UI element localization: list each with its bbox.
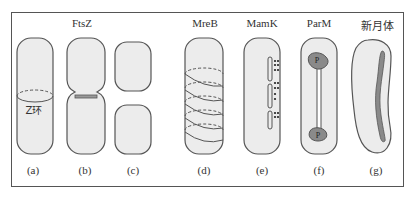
panel-label-c: (c) — [127, 164, 139, 176]
header-ftsz: FtsZ — [72, 17, 92, 29]
parm-filament — [317, 64, 321, 132]
mamk-filament — [268, 57, 272, 81]
mamk-filament — [268, 84, 272, 108]
cell-e — [244, 38, 280, 154]
mamk-filament — [268, 111, 272, 129]
panel-label-d: (d) — [198, 164, 211, 176]
header-mreb: MreB — [192, 17, 218, 29]
panel-label-f: (f) — [314, 164, 325, 176]
cell-c-bottom — [115, 105, 151, 154]
header-mamk: MamK — [246, 17, 277, 29]
cell-c-top — [115, 42, 151, 91]
panel-label-b: (b) — [79, 164, 92, 176]
panel-label-a: (a) — [27, 164, 39, 176]
panel-label-g: (g) — [370, 164, 383, 176]
header-crescentin: 新月体 — [361, 17, 394, 33]
header-parm: ParM — [307, 17, 331, 29]
plasmid-label: P — [315, 56, 320, 65]
plasmid-label: P — [316, 131, 321, 140]
cell-g-crescent — [352, 40, 391, 153]
panel-label-e: (e) — [256, 164, 268, 176]
cell-a — [17, 38, 53, 154]
z-ring-annotation: Z环 — [26, 102, 43, 117]
